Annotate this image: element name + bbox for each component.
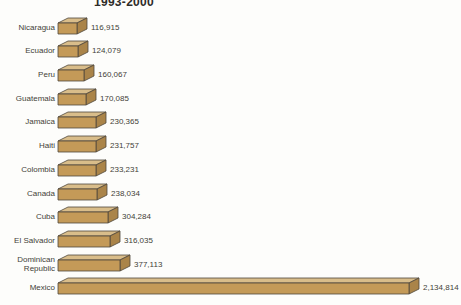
category-label: Colombia [0,164,55,173]
bar-front-face [58,141,96,152]
bar-front-face [58,23,77,34]
bar-3d-box [57,230,121,248]
bar-row: Cuba304,284 [0,203,461,227]
bar-3d-box [57,183,108,201]
category-label: Dominican Republic [0,255,55,273]
bar-rows: Nicaragua116,915Ecuador124,079Peru160,06… [0,13,461,297]
value-label: 304,284 [122,212,151,221]
bar-row: Canada238,034 [0,179,461,203]
category-label: Mexico [0,283,55,292]
value-label: 233,231 [110,165,139,174]
chart-title: 1993-2000 [94,0,154,9]
category-label: Nicaragua [0,22,55,31]
bar-3d-box [57,17,88,35]
bar-row: El Salvador316,035 [0,226,461,250]
bar-front-face [58,70,84,81]
bar-3d-box [57,111,107,129]
value-label: 231,757 [110,141,139,150]
bar-front-face [58,117,96,128]
bar-3d-box [57,135,107,153]
category-label: Jamaica [0,117,55,126]
bar-3d-box [57,254,131,272]
category-label: Haiti [0,141,55,150]
value-label: 124,079 [92,46,121,55]
bar-row: Nicaragua116,915 [0,13,461,37]
value-label: 377,113 [134,260,162,269]
value-label: 170,085 [100,94,129,103]
bar-front-face [58,260,120,271]
bar-chart-figure: 1993-2000 Nicaragua116,915Ecuador124,079… [0,0,461,305]
bar-front-face [58,236,110,247]
bar-front-face [58,94,86,105]
value-label: 316,035 [124,236,153,245]
category-label: Ecuador [0,46,55,55]
bar-row: Mexico2,134,814 [0,274,461,298]
bar-row: Ecuador124,079 [0,37,461,61]
value-label: 230,365 [110,117,139,126]
bar-row: Peru160,067 [0,60,461,84]
bar-front-face [58,212,108,223]
bar-top-face [58,255,130,260]
bar-row: Dominican Republic377,113 [0,250,461,274]
category-label: Canada [0,188,55,197]
bar-front-face [58,46,78,57]
bar-front-face [58,189,97,200]
bar-row: Guatemala170,085 [0,84,461,108]
bar-row: Haiti231,757 [0,131,461,155]
bar-front-face [58,165,96,176]
bar-row: Colombia233,231 [0,155,461,179]
category-label: Guatemala [0,93,55,102]
bar-3d-box [57,159,107,177]
bar-3d-box [57,277,420,295]
bar-row: Jamaica230,365 [0,108,461,132]
bar-3d-box [57,206,119,224]
value-label: 2,134,814 [423,283,459,292]
bar-3d-box [57,40,89,58]
bar-3d-box [57,64,95,82]
bar-3d-box [57,88,97,106]
bar-front-face [58,283,409,294]
bar-top-face [58,278,419,283]
value-label: 160,067 [98,70,127,79]
value-label: 116,915 [91,23,119,32]
value-label: 238,034 [111,189,140,198]
category-label: El Salvador [0,235,55,244]
category-label: Cuba [0,212,55,221]
category-label: Peru [0,70,55,79]
